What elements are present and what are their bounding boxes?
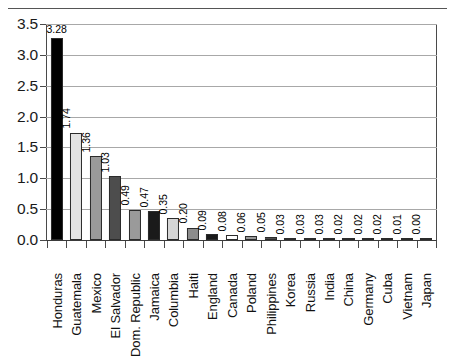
y-tick-mark <box>40 24 46 25</box>
bar[interactable] <box>148 211 160 240</box>
bar-slot: 1.03 <box>105 24 124 240</box>
x-tick-mark <box>280 241 281 248</box>
x-tick-mark <box>339 241 340 248</box>
category-label-slot: Vietnam <box>397 273 416 359</box>
y-tick-label: 1.5 <box>0 139 38 155</box>
category-label-slot: Cuba <box>378 273 397 359</box>
y-tick-mark <box>40 209 46 210</box>
y-tick-label: 0.0 <box>0 232 38 248</box>
y-tick-mark <box>40 117 46 118</box>
bar[interactable] <box>401 238 413 240</box>
category-label-slot: Columbia <box>164 273 183 359</box>
bar-slot: 0.03 <box>300 24 319 240</box>
bar[interactable] <box>206 234 218 240</box>
x-tick-mark <box>436 241 437 248</box>
bar-slot: 0.49 <box>125 24 144 240</box>
x-tick-mark <box>183 241 184 248</box>
bar-value-label: 0.06 <box>236 212 247 232</box>
bar-slot: 0.06 <box>242 24 261 240</box>
category-label-slot: Honduras <box>47 273 66 359</box>
category-label: Cuba <box>381 273 394 304</box>
bar[interactable] <box>420 238 432 240</box>
x-tick-mark <box>164 241 165 248</box>
bar[interactable] <box>362 238 374 240</box>
category-label: Haiti <box>186 273 199 299</box>
bar[interactable] <box>284 238 296 240</box>
category-label: Columbia <box>167 273 180 327</box>
category-label: Russia <box>303 273 316 312</box>
x-tick-mark <box>397 241 398 248</box>
category-label: Dom. Republic <box>128 273 141 357</box>
bar[interactable] <box>51 38 63 240</box>
category-label: Jamaica <box>147 273 160 321</box>
bar-slot: 0.00 <box>417 24 436 240</box>
x-tick-mark <box>378 241 379 248</box>
category-label-slot: Guatemala <box>66 273 85 359</box>
bar-value-label: 0.01 <box>391 214 402 234</box>
y-tick-label: 1.0 <box>0 170 38 186</box>
bar-value-label: 0.09 <box>197 210 208 230</box>
bar-value-label: 0.47 <box>138 187 149 207</box>
bar[interactable] <box>304 238 316 240</box>
y-tick-mark <box>40 147 46 148</box>
category-label-slot: Poland <box>242 273 261 359</box>
y-tick-label: 0.5 <box>0 201 38 217</box>
bar-value-label: 0.00 <box>411 214 422 234</box>
category-label-slot: India <box>319 273 338 359</box>
bar-value-label: 0.03 <box>294 214 305 234</box>
x-tick-mark <box>47 241 48 248</box>
bar-slot: 0.03 <box>319 24 338 240</box>
category-label-slot: China <box>339 273 358 359</box>
category-label: Poland <box>245 273 258 313</box>
category-label: Honduras <box>50 273 63 329</box>
x-tick-mark <box>261 241 262 248</box>
bar-slot: 0.02 <box>378 24 397 240</box>
bar-value-label: 1.74 <box>61 108 72 128</box>
y-tick-mark <box>40 86 46 87</box>
category-label: Japan <box>420 273 433 308</box>
bar[interactable] <box>265 237 277 240</box>
bar-slot: 1.36 <box>86 24 105 240</box>
x-tick-mark <box>86 241 87 248</box>
bar[interactable] <box>128 210 140 240</box>
bar[interactable] <box>226 235 238 240</box>
bar-chart-figure: 0.00.51.01.52.02.53.03.5 3.281.741.361.0… <box>0 0 455 359</box>
bar[interactable] <box>245 236 257 240</box>
x-tick-mark <box>319 241 320 248</box>
category-label-slot: Jamaica <box>144 273 163 359</box>
category-label: Philippines <box>264 273 277 335</box>
bar-value-label: 1.36 <box>80 132 91 152</box>
category-label: India <box>323 273 336 301</box>
bar-value-label: 0.02 <box>352 214 363 234</box>
bar-value-label: 0.49 <box>119 185 130 205</box>
bar-slot: 0.02 <box>339 24 358 240</box>
y-tick-mark <box>40 178 46 179</box>
bar-value-label: 0.20 <box>177 203 188 223</box>
bar[interactable] <box>323 238 335 240</box>
bar-value-label: 0.08 <box>216 211 227 231</box>
bar-slot: 0.20 <box>183 24 202 240</box>
x-tick-mark <box>125 241 126 248</box>
category-label-slot: Korea <box>280 273 299 359</box>
category-label: Guatemala <box>70 273 83 336</box>
bar-value-label: 0.35 <box>158 194 169 214</box>
bar-value-label: 3.28 <box>47 24 67 35</box>
category-label-slot: Japan <box>417 273 436 359</box>
category-label: Canada <box>225 273 238 318</box>
bar-value-label: 1.03 <box>100 152 111 172</box>
x-tick-mark <box>417 241 418 248</box>
y-tick-mark <box>40 240 46 241</box>
category-label: El Salvador <box>109 273 122 338</box>
category-label: China <box>342 273 355 306</box>
bar-value-label: 0.03 <box>275 214 286 234</box>
y-tick-mark <box>40 55 46 56</box>
category-label-slot: Philippines <box>261 273 280 359</box>
bar[interactable] <box>381 238 393 240</box>
category-label-slot: Dom. Republic <box>125 273 144 359</box>
category-label-slot: Mexico <box>86 273 105 359</box>
bar-slot: 0.03 <box>280 24 299 240</box>
bar-value-label: 0.05 <box>255 212 266 232</box>
bar-value-label: 0.02 <box>333 214 344 234</box>
bar[interactable] <box>342 238 354 240</box>
category-label-slot: Haiti <box>183 273 202 359</box>
